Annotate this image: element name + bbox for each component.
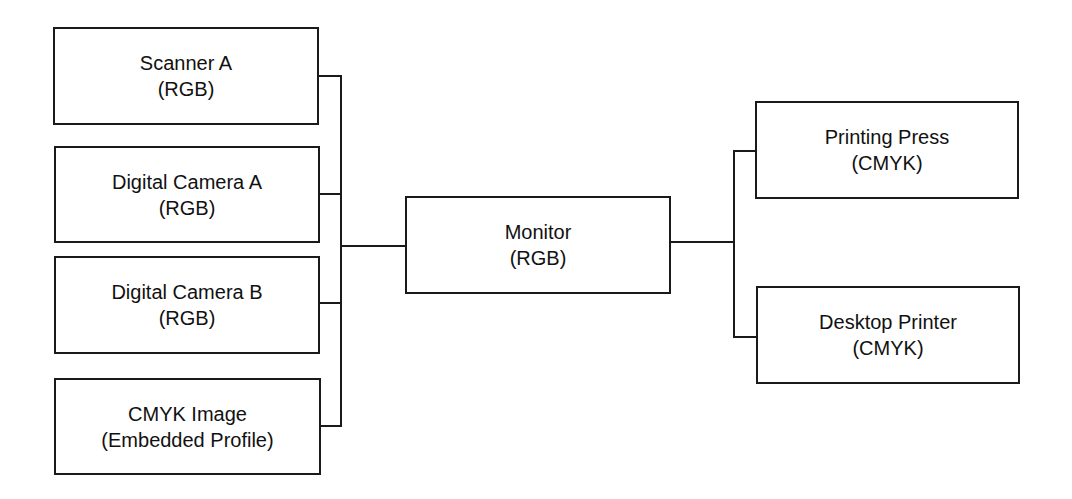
node-sublabel: (RGB) <box>159 195 216 221</box>
connector-bus-to-monitor <box>340 245 406 247</box>
node-label: Printing Press <box>825 124 950 150</box>
node-label: Monitor <box>505 219 572 245</box>
left-bus <box>340 75 342 427</box>
node-printing-press: Printing Press (CMYK) <box>755 101 1019 199</box>
node-sublabel: (CMYK) <box>851 150 922 176</box>
connector-desktop-printer <box>733 336 757 338</box>
node-sublabel: (RGB) <box>510 245 567 271</box>
node-sublabel: (CMYK) <box>852 335 923 361</box>
node-desktop-printer: Desktop Printer (CMYK) <box>756 286 1020 384</box>
node-label: Digital Camera B <box>111 279 262 305</box>
node-digital-camera-a: Digital Camera A (RGB) <box>54 146 320 243</box>
connector-scanner-a <box>318 75 341 77</box>
node-sublabel: (RGB) <box>158 76 215 102</box>
connector-cmyk-image <box>320 425 342 427</box>
node-label: Desktop Printer <box>819 309 957 335</box>
connector-digital-camera-a <box>319 193 341 195</box>
connector-digital-camera-b <box>319 302 341 304</box>
node-monitor: Monitor (RGB) <box>405 196 671 294</box>
node-sublabel: (RGB) <box>159 305 216 331</box>
node-sublabel: (Embedded Profile) <box>101 427 273 453</box>
node-scanner-a: Scanner A (RGB) <box>53 27 319 125</box>
connector-printing-press <box>733 150 756 152</box>
connector-monitor-to-bus <box>670 241 735 243</box>
node-digital-camera-b: Digital Camera B (RGB) <box>54 256 320 354</box>
node-label: CMYK Image <box>128 401 247 427</box>
node-label: Scanner A <box>140 50 232 76</box>
node-label: Digital Camera A <box>112 169 262 195</box>
node-cmyk-image: CMYK Image (Embedded Profile) <box>54 378 321 475</box>
right-bus <box>733 150 735 338</box>
